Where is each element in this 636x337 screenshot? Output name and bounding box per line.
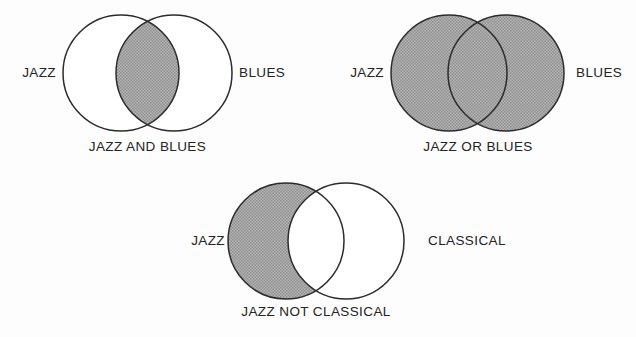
label-blues-right: BLUES <box>576 66 636 80</box>
venn-figure-difference: JAZZ CLASSICAL JAZZ NOT CLASSICAL <box>160 170 480 337</box>
caption-jazz-not-classical: JAZZ NOT CLASSICAL <box>160 305 472 319</box>
label-blues-right: BLUES <box>239 66 318 80</box>
label-jazz-left: JAZZ <box>160 234 225 248</box>
caption-jazz-or-blues: JAZZ OR BLUES <box>318 140 636 154</box>
label-classical-right: CLASSICAL <box>428 234 518 248</box>
venn-diagram-page: JAZZ BLUES JAZZ AND BLUES JAZZ BLUES <box>0 0 636 337</box>
label-jazz-left: JAZZ <box>318 66 384 80</box>
label-jazz-left: JAZZ <box>0 66 56 80</box>
caption-jazz-and-blues: JAZZ AND BLUES <box>0 140 295 154</box>
venn-figure-intersection: JAZZ BLUES JAZZ AND BLUES <box>0 0 318 170</box>
shaded-region-union <box>391 15 564 131</box>
venn-figure-union: JAZZ BLUES JAZZ OR BLUES <box>318 0 636 170</box>
